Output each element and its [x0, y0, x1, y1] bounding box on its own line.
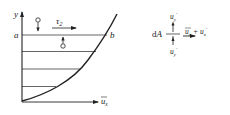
- x-axis-label: ux: [101, 96, 108, 107]
- particle-down-icon: [36, 18, 40, 32]
- mean-plus-fluctuation-label: ux+ux′: [185, 27, 208, 37]
- right-figure: dA uy′ uy′ ux+ux′: [152, 12, 208, 57]
- point-b-label: b: [110, 30, 115, 40]
- area-element-label: dA: [152, 29, 163, 39]
- y-axis-label: y: [13, 9, 18, 19]
- bottom-velocity-label: uy′: [170, 47, 178, 57]
- velocity-profile-curve: [22, 14, 117, 101]
- top-velocity-label: uy′: [170, 12, 178, 22]
- particle-up-icon: [61, 37, 65, 49]
- left-figure: y a b τ2 ux: [13, 9, 117, 107]
- svg-text:ux: ux: [101, 96, 108, 107]
- velocity-profile-diagram: y a b τ2 ux dA uy′: [0, 0, 230, 115]
- top-arrowhead-icon: [172, 22, 175, 26]
- point-a-label: a: [14, 30, 19, 40]
- bottom-arrowhead-icon: [172, 37, 175, 41]
- shear-label: τ2: [56, 16, 63, 27]
